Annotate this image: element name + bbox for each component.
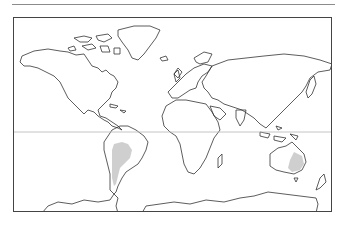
world-map-frame bbox=[13, 17, 332, 212]
greenland-outline bbox=[118, 26, 160, 60]
british-isles-outline bbox=[174, 70, 180, 82]
scandinavia-outline bbox=[194, 52, 212, 64]
europe-outline bbox=[168, 64, 212, 98]
new-zealand-outline bbox=[316, 174, 326, 190]
world-map bbox=[14, 18, 332, 212]
iceland-outline bbox=[160, 56, 168, 61]
japan-outline bbox=[306, 76, 316, 98]
madagascar-outline bbox=[218, 154, 222, 168]
arctic-islands-outline bbox=[68, 34, 120, 54]
range-south-america bbox=[112, 142, 132, 186]
range-eastern-australia bbox=[288, 152, 304, 172]
africa-outline bbox=[162, 100, 220, 174]
antarctica-outline bbox=[42, 192, 318, 212]
north-america-outline bbox=[20, 49, 122, 130]
india-outline bbox=[236, 110, 246, 126]
asia-outline bbox=[202, 54, 332, 128]
top-divider-rule bbox=[12, 4, 335, 5]
caribbean-outline bbox=[110, 104, 126, 113]
indonesia-outline bbox=[260, 126, 298, 142]
tasmania-outline bbox=[294, 178, 298, 182]
